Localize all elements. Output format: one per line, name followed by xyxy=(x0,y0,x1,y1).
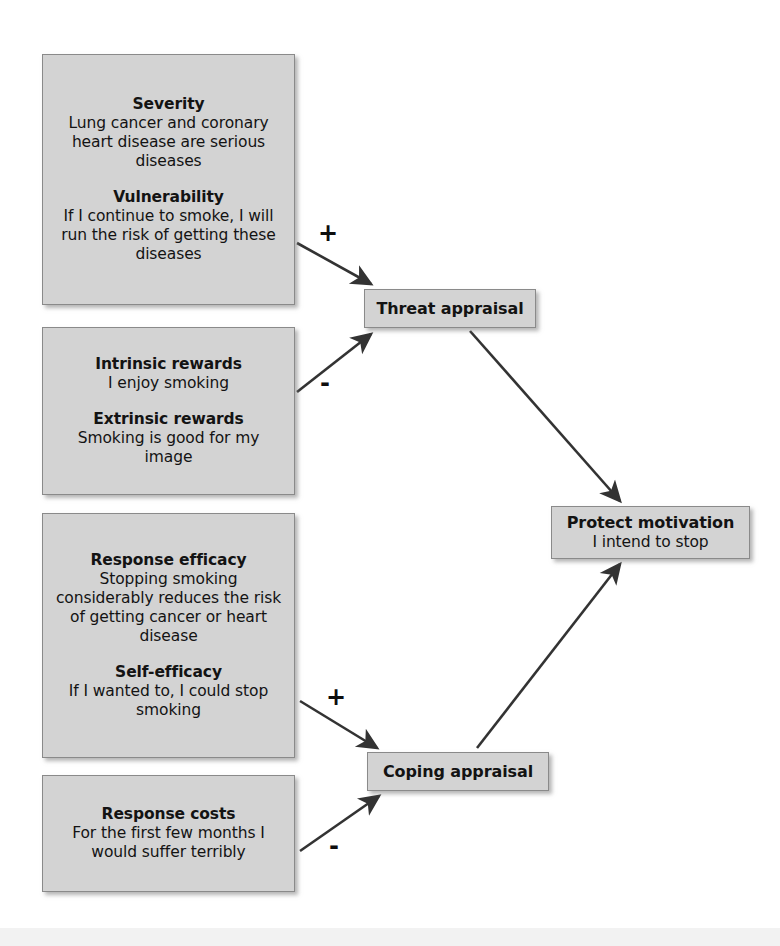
group-vulnerability: Vulnerability If I continue to smoke, I … xyxy=(53,188,284,264)
edge-costs-to-coping xyxy=(300,796,379,851)
node-efficacy[interactable]: Response efficacy Stopping smoking consi… xyxy=(42,513,295,758)
group-heading: Extrinsic rewards xyxy=(53,410,284,429)
group-heading: Response efficacy xyxy=(53,551,284,570)
node-threat-appraisal[interactable]: Threat appraisal xyxy=(364,289,536,328)
edge-rewards-to-threat xyxy=(297,334,371,392)
group-severity: Severity Lung cancer and coronary heart … xyxy=(53,95,284,171)
group-body: For the first few months I would suffer … xyxy=(53,824,284,862)
group-response-efficacy: Response efficacy Stopping smoking consi… xyxy=(53,551,284,646)
node-label: Protect motivation xyxy=(567,513,735,533)
node-threat-sources[interactable]: Severity Lung cancer and coronary heart … xyxy=(42,54,295,305)
group-heading: Severity xyxy=(53,95,284,114)
group-intrinsic-rewards: Intrinsic rewards I enjoy smoking xyxy=(53,355,284,393)
group-body: I enjoy smoking xyxy=(53,374,284,393)
page-footer-band xyxy=(0,928,780,946)
node-coping-appraisal[interactable]: Coping appraisal xyxy=(367,752,549,791)
node-label: Coping appraisal xyxy=(383,762,533,782)
edge-coping-to-motivation xyxy=(477,564,620,748)
edge-threat-to-motivation xyxy=(470,331,620,501)
group-heading: Self-efficacy xyxy=(53,663,284,682)
edge-severity-to-threat xyxy=(297,243,371,284)
group-body: Stopping smoking considerably reduces th… xyxy=(53,570,284,646)
group-extrinsic-rewards: Extrinsic rewards Smoking is good for my… xyxy=(53,410,284,467)
group-self-efficacy: Self-efficacy If I wanted to, I could st… xyxy=(53,663,284,720)
group-body: If I wanted to, I could stop smoking xyxy=(53,682,284,720)
node-label: Threat appraisal xyxy=(376,299,523,319)
node-rewards[interactable]: Intrinsic rewards I enjoy smoking Extrin… xyxy=(42,327,295,495)
node-protect-motivation[interactable]: Protect motivation I intend to stop xyxy=(551,506,750,559)
node-response-costs[interactable]: Response costs For the first few months … xyxy=(42,775,295,892)
group-heading: Vulnerability xyxy=(53,188,284,207)
edge-sign-minus-coping: - xyxy=(329,834,339,858)
group-heading: Intrinsic rewards xyxy=(53,355,284,374)
edge-sign-plus-threat: + xyxy=(318,221,338,245)
edge-sign-plus-coping: + xyxy=(326,685,346,709)
group-body: Lung cancer and coronary heart disease a… xyxy=(53,114,284,171)
diagram-canvas: Severity Lung cancer and coronary heart … xyxy=(0,0,780,946)
node-sublabel: I intend to stop xyxy=(592,533,708,552)
edge-sign-minus-threat: - xyxy=(320,371,330,395)
group-response-costs: Response costs For the first few months … xyxy=(53,805,284,862)
group-body: If I continue to smoke, I will run the r… xyxy=(53,207,284,264)
group-body: Smoking is good for my image xyxy=(53,429,284,467)
group-heading: Response costs xyxy=(53,805,284,824)
